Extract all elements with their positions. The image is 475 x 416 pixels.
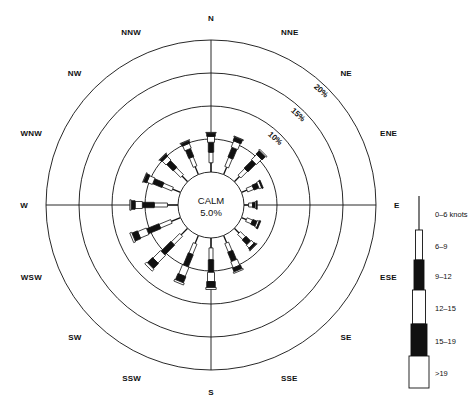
petal-seg-N-3: [208, 136, 215, 142]
ring-label-10: 10%: [266, 130, 284, 147]
legend-swatch-3: [413, 290, 426, 324]
ring-labels-group: 10%15%20%: [266, 82, 330, 147]
petal-seg-SE-0: [234, 228, 239, 233]
legend-swatch-1: [416, 230, 423, 260]
legend-label-4: 15–19: [435, 337, 456, 346]
compass-label-E: E: [394, 201, 400, 210]
petal-seg-W-4: [131, 201, 135, 210]
petal-seg-WSW-1: [159, 220, 172, 228]
petal-seg-N-1: [209, 152, 213, 163]
compass-label-NW: NW: [68, 69, 82, 78]
compass-label-WSW: WSW: [21, 273, 42, 282]
compass-label-S: S: [208, 388, 214, 397]
petal-N: [206, 132, 216, 172]
petal-seg-N-5: [206, 132, 216, 133]
petal-NW: [159, 153, 188, 182]
petal-seg-SSW-2: [183, 253, 193, 267]
wind-rose-svg: CALM5.0% 10%15%20% NNNENEENEEESESESSESSS…: [0, 0, 475, 416]
petal-seg-E-1: [249, 203, 253, 207]
legend-item-5: >19: [409, 356, 448, 388]
petal-seg-ESE-0: [241, 218, 246, 220]
legend-label-0: 0–6 knots: [435, 210, 468, 219]
petal-seg-S-2: [208, 260, 213, 273]
compass-label-NNE: NNE: [281, 28, 299, 37]
legend-item-0: 0–6 knots: [419, 196, 468, 230]
compass-label-SSW: SSW: [122, 374, 141, 383]
petal-seg-S-1: [209, 248, 213, 260]
calm-value: 5.0%: [200, 207, 222, 218]
petal-NNE: [224, 136, 244, 175]
compass-label-SE: SE: [340, 333, 352, 342]
legend-label-5: >19: [435, 369, 448, 378]
figure-caption: [6, 404, 469, 416]
petal-S: [206, 238, 216, 289]
legend-swatch-5: [409, 356, 429, 388]
petal-seg-SSE-0: [224, 235, 227, 242]
legend-group: 0–6 knots6–99–1212–1515–19>19: [409, 196, 468, 388]
petal-seg-NNW-1: [189, 157, 196, 168]
petal-seg-S-5: [206, 288, 216, 290]
petal-seg-WSW-2: [147, 224, 161, 234]
petal-seg-W-5: [130, 200, 131, 210]
petal-seg-NNW-0: [195, 167, 198, 175]
petal-seg-S-3: [208, 272, 215, 281]
legend-item-1: 6–9: [416, 230, 448, 260]
compass-label-NE: NE: [340, 69, 352, 78]
petal-seg-N-4: [207, 133, 216, 136]
compass-label-N: N: [208, 14, 214, 23]
ring-label-20: 20%: [312, 82, 330, 99]
compass-label-SSE: SSE: [281, 374, 298, 383]
petal-E: [244, 201, 257, 210]
wind-rose-figure: CALM5.0% 10%15%20% NNNENEENEEESESESSESSS…: [0, 0, 475, 416]
legend-label-2: 9–12: [435, 272, 452, 281]
legend-item-3: 12–15: [413, 290, 456, 324]
legend-label-1: 6–9: [435, 242, 448, 251]
petal-seg-E-4: [257, 201, 258, 210]
petal-seg-NE-0: [234, 177, 239, 182]
compass-label-NNW: NNW: [121, 28, 141, 37]
petal-seg-NW-0: [182, 176, 188, 182]
petal-seg-NNE-1: [225, 157, 232, 168]
compass-label-ESE: ESE: [380, 273, 397, 282]
petal-seg-N-2: [208, 142, 213, 152]
petal-seg-ENE-0: [241, 190, 246, 192]
petal-seg-W-2: [142, 202, 154, 207]
compass-label-WNW: WNW: [20, 129, 42, 138]
petal-ENE: [241, 180, 263, 192]
petal-seg-WNW-0: [173, 189, 181, 192]
compass-label-W: W: [20, 201, 28, 210]
petal-NE: [234, 149, 267, 182]
petal-seg-W-1: [154, 203, 167, 207]
legend-item-2: 9–12: [414, 260, 452, 290]
compass-label-ENE: ENE: [380, 129, 398, 138]
petal-seg-WSW-0: [171, 218, 180, 222]
legend-swatch-4: [411, 324, 427, 356]
calm-label: CALM: [198, 195, 224, 206]
petal-seg-SW-0: [181, 228, 188, 235]
petal-SSE: [224, 235, 244, 273]
compass-label-SW: SW: [68, 333, 82, 342]
petal-ESE: [241, 218, 260, 229]
petal-seg-W-3: [135, 202, 142, 209]
petal-NNW: [180, 140, 198, 175]
petal-seg-SSW-0: [195, 235, 198, 243]
petal-SSW: [174, 235, 199, 285]
petal-seg-WNW-1: [162, 183, 173, 191]
petal-WNW: [143, 173, 181, 193]
petal-WSW: [130, 218, 181, 243]
petal-SE: [234, 228, 257, 251]
petal-SW: [145, 228, 188, 271]
legend-label-3: 12–15: [435, 304, 456, 313]
petal-seg-S-4: [207, 282, 216, 288]
calm-circle-group: CALM5.0%: [178, 172, 244, 238]
legend-item-4: 15–19: [411, 324, 456, 356]
petal-seg-SSW-1: [189, 243, 197, 255]
legend-swatch-2: [414, 260, 424, 290]
petal-W: [130, 200, 178, 210]
petal-seg-NNE-0: [224, 167, 227, 174]
ring-label-15: 15%: [289, 106, 307, 123]
